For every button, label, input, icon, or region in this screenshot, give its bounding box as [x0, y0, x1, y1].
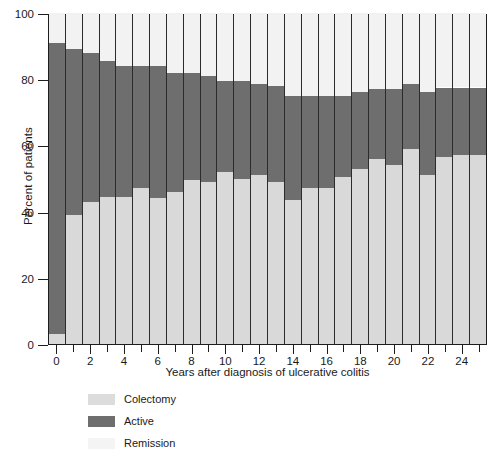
bar-segment-remission [302, 188, 318, 344]
bar-segment-colectomy [234, 13, 250, 81]
legend-label: Colectomy [124, 393, 176, 405]
legend-item[interactable]: Active [88, 412, 176, 430]
bar-segment-active [420, 92, 436, 175]
bar-segment-active [83, 53, 99, 202]
bar-segment-remission [386, 165, 402, 344]
bar-segment-remission [217, 172, 233, 344]
x-tick-mark-minor [479, 345, 480, 352]
bar-column [420, 15, 437, 344]
bar-segment-colectomy [251, 13, 267, 84]
bar-segment-active [369, 89, 385, 159]
legend-item[interactable]: Remission [88, 434, 176, 452]
x-tick-mark [90, 345, 91, 354]
bar-column [66, 15, 83, 344]
bar-segment-active [66, 49, 82, 215]
bar-segment-remission [100, 197, 116, 344]
bar-column [453, 15, 470, 344]
bar-segment-colectomy [369, 13, 385, 89]
bar-segment-remission [251, 175, 267, 344]
legend-swatch [88, 416, 115, 427]
bar-segment-remission [66, 215, 82, 344]
bar-segment-remission [83, 202, 99, 344]
x-tick-mark [293, 345, 294, 354]
y-tick-mark [38, 213, 48, 214]
bar-column [234, 15, 251, 344]
bar-segment-remission [335, 177, 351, 344]
bar-column [83, 15, 100, 344]
x-tick-mark-minor [445, 345, 446, 352]
bar-segment-remission [369, 159, 385, 344]
x-axis-title: Years after diagnosis of ulcerative coli… [48, 366, 487, 378]
x-tick-mark [225, 345, 226, 354]
bar-segment-colectomy [420, 13, 436, 92]
bar-series-container [49, 15, 486, 344]
y-tick-label: 60 [0, 140, 34, 152]
bar-segment-colectomy [217, 13, 233, 81]
bar-segment-active [133, 66, 149, 188]
bar-segment-remission [285, 200, 301, 344]
bar-segment-active [285, 96, 301, 200]
chart-legend: ColectomyActiveRemission [88, 390, 176, 456]
x-tick-mark-minor [107, 345, 108, 352]
bar-segment-active [100, 61, 116, 197]
bar-column [100, 15, 117, 344]
bar-segment-remission [420, 175, 436, 344]
x-tick-mark-minor [175, 345, 176, 352]
x-tick-mark [158, 345, 159, 354]
plot-area [48, 14, 487, 345]
bar-column [150, 15, 167, 344]
x-tick-mark [462, 345, 463, 354]
legend-swatch [88, 438, 115, 449]
bar-segment-colectomy [319, 13, 335, 96]
bar-segment-remission [453, 155, 469, 344]
x-tick-mark-minor [343, 345, 344, 352]
bar-column [335, 15, 352, 344]
bar-column [470, 15, 486, 344]
bar-segment-active [453, 88, 469, 156]
bar-column [268, 15, 285, 344]
bar-segment-remission [436, 157, 452, 344]
y-tick-label: 0 [0, 339, 34, 351]
bar-segment-remission [201, 182, 217, 344]
bar-segment-active [470, 88, 486, 156]
x-tick-mark [428, 345, 429, 354]
bar-segment-remission [234, 179, 250, 345]
bar-segment-active [403, 84, 419, 149]
bar-segment-active [386, 89, 402, 165]
bar-segment-active [150, 66, 166, 198]
bar-segment-colectomy [302, 13, 318, 96]
bar-segment-active [201, 76, 217, 182]
x-tick-mark-minor [276, 345, 277, 352]
x-tick-mark-minor [242, 345, 243, 352]
bar-column [201, 15, 218, 344]
bar-column [285, 15, 302, 344]
y-tick-label: 80 [0, 74, 34, 86]
bar-segment-colectomy [133, 13, 149, 66]
bar-segment-remission [133, 188, 149, 344]
bar-column [319, 15, 336, 344]
x-tick-mark [56, 345, 57, 354]
bar-segment-active [184, 73, 200, 181]
bar-column [369, 15, 386, 344]
bar-segment-remission [319, 188, 335, 344]
y-tick-mark [38, 14, 48, 15]
bar-segment-colectomy [100, 13, 116, 61]
legend-item[interactable]: Colectomy [88, 390, 176, 408]
legend-swatch [88, 394, 115, 405]
bar-column [302, 15, 319, 344]
bar-segment-colectomy [335, 13, 351, 96]
bar-segment-colectomy [403, 13, 419, 84]
bar-column [116, 15, 133, 344]
bar-segment-active [352, 92, 368, 168]
chart-root: Percent of patients 020406080100 0246810… [0, 0, 504, 456]
bar-column [133, 15, 150, 344]
bar-segment-colectomy [285, 13, 301, 96]
bar-segment-active [116, 66, 132, 197]
x-tick-mark-minor [310, 345, 311, 352]
bar-segment-active [268, 86, 284, 182]
x-tick-mark [192, 345, 193, 354]
bar-segment-colectomy [470, 13, 486, 87]
bar-segment-active [302, 96, 318, 189]
bar-segment-remission [167, 192, 183, 344]
bar-segment-active [335, 96, 351, 177]
